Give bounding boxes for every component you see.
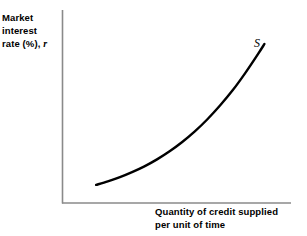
x-axis-label-line-2: per unit of time [155,219,278,232]
x-axis-label-line-1: Quantity of credit supplied [155,206,278,219]
supply-curve [96,44,264,185]
plot-area [0,0,307,236]
x-axis-label: Quantity of credit supplied per unit of … [155,206,278,231]
supply-curve-label: S [254,36,260,51]
supply-curve-figure: Market interest rate (%), r S Quantity o… [0,0,307,236]
